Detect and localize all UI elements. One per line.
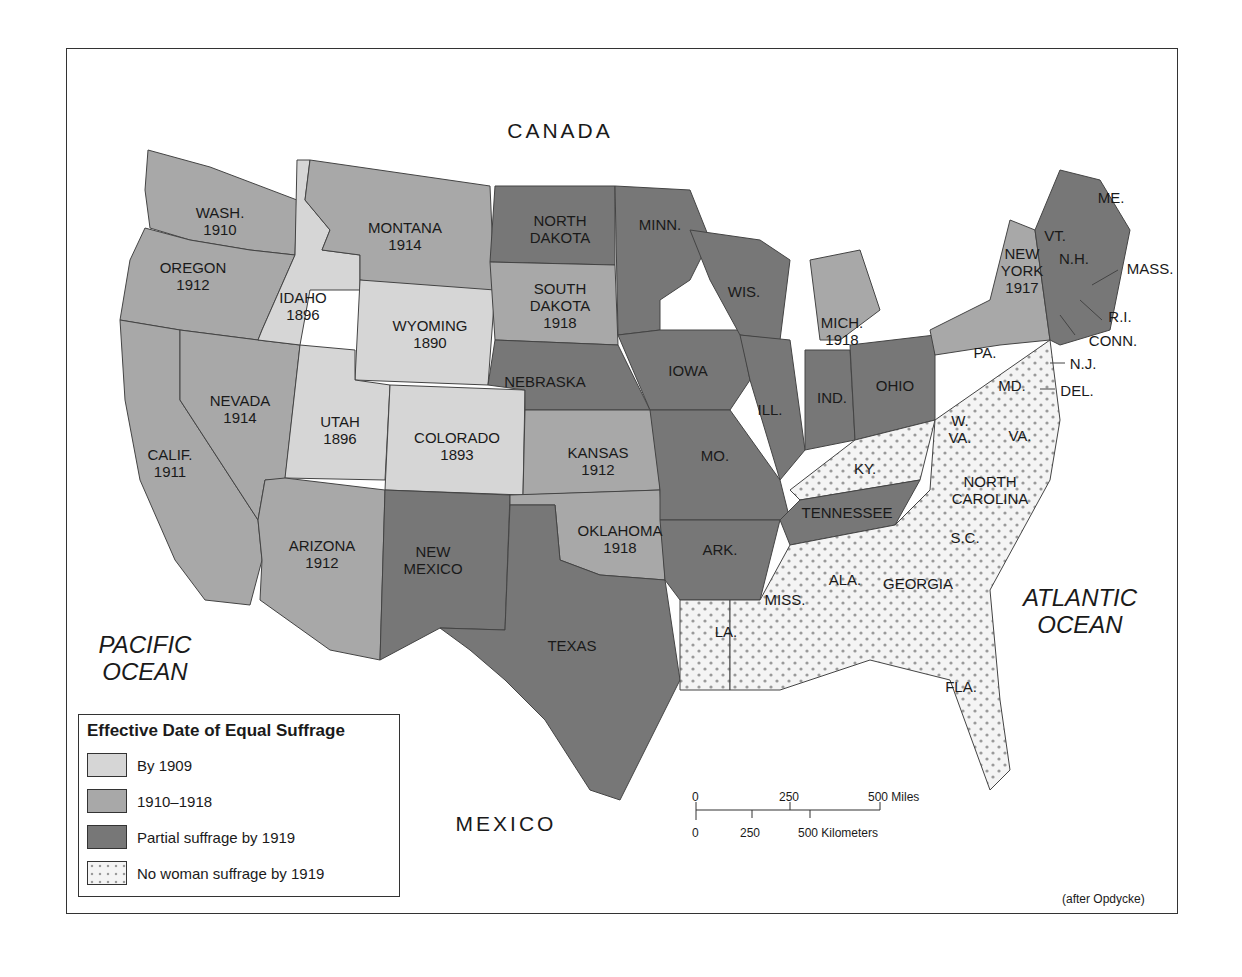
state-name: OREGON: [160, 259, 227, 276]
state-label-nebraska: NEBRASKA: [504, 373, 586, 390]
state-label-oregon: OREGON1912: [160, 259, 227, 293]
state-label-calif: CALIF.1911: [147, 446, 192, 480]
scale-km-0: 0: [692, 826, 699, 840]
state-label-vt: VT.: [1044, 227, 1066, 244]
legend-label: 1910–1918: [137, 793, 212, 810]
pacific-line2: OCEAN: [99, 658, 192, 685]
state-label-nh: N.H.: [1059, 250, 1089, 267]
state-name: YORK: [1001, 262, 1044, 279]
label-pacific-ocean: PACIFIC OCEAN: [99, 631, 192, 685]
state-name: NORTH: [530, 212, 591, 229]
state-label-wash: WASH.1910: [196, 204, 245, 238]
state-label-texas: TEXAS: [547, 637, 596, 654]
state-year: 1918: [577, 539, 662, 556]
state-name: NEW: [1001, 245, 1044, 262]
state-label-pa: PA.: [973, 344, 996, 361]
legend: Effective Date of Equal Suffrage By 1909…: [78, 714, 400, 897]
state-label-ark: ARK.: [702, 541, 737, 558]
label-canada: CANADA: [507, 122, 613, 139]
state-label-wyoming: WYOMING1890: [393, 317, 468, 351]
state-name: KANSAS: [568, 444, 629, 461]
state-name: WYOMING: [393, 317, 468, 334]
state-year: 1914: [368, 236, 442, 253]
state-label-la: LA.: [715, 623, 738, 640]
state-label-md: MD.: [998, 377, 1026, 394]
state-year: 1893: [414, 446, 500, 463]
state-label-conn: CONN.: [1089, 332, 1137, 349]
scale-miles-0: 0: [692, 790, 699, 804]
state-name: WASH.: [196, 204, 245, 221]
state-name: ARIZONA: [289, 537, 356, 554]
state-year: 1911: [147, 463, 192, 480]
legend-label: By 1909: [137, 757, 192, 774]
state-year: 1912: [568, 461, 629, 478]
state-label-wis: WIS.: [728, 283, 761, 300]
state-name: SOUTH: [530, 280, 591, 297]
state-label-ri: R.I.: [1108, 308, 1131, 325]
state-year: 1912: [160, 276, 227, 293]
state-label-va: VA.: [1008, 427, 1031, 444]
state-year: 1912: [289, 554, 356, 571]
state-label-mich: MICH.1918: [821, 314, 864, 348]
state-year: 1896: [320, 430, 360, 447]
state-arkansas: [660, 520, 780, 600]
scale-km-500: 500 Kilometers: [798, 826, 878, 840]
state-label-new-mexico: NEWMEXICO: [403, 543, 462, 577]
state-label-georgia: GEORGIA: [883, 575, 953, 592]
state-name: MONTANA: [368, 219, 442, 236]
state-name: OKLAHOMA: [577, 522, 662, 539]
state-name: UTAH: [320, 413, 360, 430]
state-label-me: ME.: [1098, 189, 1125, 206]
state-name: COLORADO: [414, 429, 500, 446]
state-label-mo: MO.: [701, 447, 729, 464]
state-label-nevada: NEVADA1914: [210, 392, 271, 426]
atlantic-line1: ATLANTIC: [1023, 584, 1137, 611]
atlantic-line2: OCEAN: [1023, 611, 1137, 638]
state-name: CALIF.: [147, 446, 192, 463]
state-name: VA.: [948, 429, 971, 446]
state-label-minn: MINN.: [639, 216, 682, 233]
swatch-none: [87, 861, 127, 885]
state-label-mass: MASS.: [1127, 260, 1174, 277]
state-label-utah: UTAH1896: [320, 413, 360, 447]
state-name: DAKOTA: [530, 297, 591, 314]
swatch-1910-1918: [87, 789, 127, 813]
state-label-montana: MONTANA1914: [368, 219, 442, 253]
legend-item-partial: Partial suffrage by 1919: [87, 819, 391, 855]
state-name: NORTH: [952, 473, 1029, 490]
state-label-south-dakota: SOUTHDAKOTA1918: [530, 280, 591, 331]
state-name: NEW: [403, 543, 462, 560]
state-label-oklahoma: OKLAHOMA1918: [577, 522, 662, 556]
state-label-ala: ALA.: [829, 571, 862, 588]
scale-miles-500: 500 Miles: [868, 790, 919, 804]
state-label-tennessee: TENNESSEE: [802, 504, 893, 521]
state-label-sc: S.C.: [950, 529, 979, 546]
state-name: IDAHO: [279, 289, 327, 306]
state-label-nj: N.J.: [1070, 355, 1097, 372]
scale-bar: 0 250 500 Miles 0 250 500 Kilometers: [690, 790, 950, 850]
state-label-fla: FLA.: [945, 678, 977, 695]
state-name: MEXICO: [403, 560, 462, 577]
label-mexico: MEXICO: [456, 815, 557, 832]
state-label-del: DEL.: [1060, 382, 1093, 399]
scale-miles-250: 250: [779, 790, 799, 804]
state-name: CAROLINA: [952, 490, 1029, 507]
state-label-new-york: NEWYORK1917: [1001, 245, 1044, 296]
label-atlantic-ocean: ATLANTIC OCEAN: [1023, 584, 1137, 638]
state-label-miss: MISS.: [765, 591, 806, 608]
state-label-idaho: IDAHO1896: [279, 289, 327, 323]
legend-label: Partial suffrage by 1919: [137, 829, 295, 846]
state-label-colorado: COLORADO1893: [414, 429, 500, 463]
state-minnesota: [615, 186, 710, 335]
state-label-ill: ILL.: [757, 401, 782, 418]
state-year: 1918: [530, 314, 591, 331]
state-label-kansas: KANSAS1912: [568, 444, 629, 478]
state-year: 1918: [821, 331, 864, 348]
legend-item-by-1909: By 1909: [87, 747, 391, 783]
pacific-line1: PACIFIC: [99, 631, 192, 658]
state-name: NEVADA: [210, 392, 271, 409]
state-label-wva: W.VA.: [948, 412, 971, 446]
state-label-north-dakota: NORTHDAKOTA: [530, 212, 591, 246]
state-louisiana: [680, 600, 730, 690]
legend-title: Effective Date of Equal Suffrage: [87, 721, 391, 741]
